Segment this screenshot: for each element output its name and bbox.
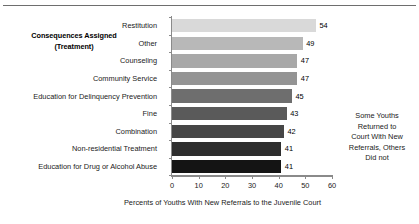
x-axis-tick <box>225 175 226 179</box>
bar <box>172 142 281 155</box>
y-axis-tick <box>169 123 173 124</box>
category-label: Restitution <box>122 21 157 30</box>
annotation-line: Court With New <box>337 132 417 143</box>
y-axis-tick <box>169 35 173 36</box>
x-axis-tick-label: 0 <box>160 181 184 190</box>
bar-row: 41Education for Drug or Alcohol Abuse <box>172 158 332 176</box>
y-axis-tick <box>169 105 173 106</box>
category-label: Fine <box>143 109 157 118</box>
bar-row: 49Other <box>172 35 332 53</box>
x-axis-tick-label: 30 <box>240 181 264 190</box>
category-label: Community Service <box>93 74 157 83</box>
bar-value-label: 41 <box>285 162 293 171</box>
category-label: Education for Drug or Alcohol Abuse <box>38 162 157 171</box>
bar-value-label: 47 <box>301 56 309 65</box>
x-axis-tick-label: 50 <box>293 181 317 190</box>
bar <box>172 125 284 138</box>
y-axis-title-line2: (Treatment) <box>6 42 142 53</box>
x-axis-tick-label: 10 <box>187 181 211 190</box>
chart-annotation: Some YouthsReturned toCourt With NewRefe… <box>337 111 417 164</box>
annotation-line: Some Youths <box>337 111 417 122</box>
bar-row: 41Non-residential Treatment <box>172 140 332 158</box>
x-axis-tick <box>252 175 253 179</box>
top-divider-rule <box>3 5 416 6</box>
bar-row: 43Fine <box>172 105 332 123</box>
annotation-line: Referrals, Others <box>337 143 417 154</box>
x-axis-tick-label: 20 <box>213 181 237 190</box>
category-label: Counseling <box>120 56 157 65</box>
bar <box>172 107 287 120</box>
bar-value-label: 49 <box>306 39 314 48</box>
y-axis-tick <box>169 17 173 18</box>
bar-value-label: 42 <box>288 127 296 136</box>
annotation-line: Returned to <box>337 122 417 133</box>
category-label: Education for Delinquency Prevention <box>33 92 157 101</box>
bar <box>172 72 297 85</box>
bar <box>172 19 316 32</box>
y-axis-tick <box>169 70 173 71</box>
y-axis-title: Consequences Assigned (Treatment) <box>6 31 142 52</box>
x-axis-tick-label: 60 <box>320 181 344 190</box>
category-label: Non-residential Treatment <box>72 144 157 153</box>
bar-value-label: 43 <box>290 109 298 118</box>
y-axis-tick <box>169 158 173 159</box>
bar-value-label: 45 <box>296 92 304 101</box>
bar-value-label: 41 <box>285 144 293 153</box>
y-axis-tick <box>169 87 173 88</box>
annotation-line: Did not <box>337 153 417 164</box>
bar-row: 54Restitution <box>172 17 332 35</box>
bar <box>172 37 303 50</box>
x-axis-tick <box>305 175 306 179</box>
bar-row: 47Community Service <box>172 70 332 88</box>
bar <box>172 160 281 173</box>
bar-row: 47Counseling <box>172 52 332 70</box>
x-axis-tick <box>172 175 173 179</box>
x-axis-title: Percents of Youths With New Referrals to… <box>0 198 419 207</box>
bar <box>172 89 292 102</box>
category-label: Combination <box>116 127 158 136</box>
y-axis-tick <box>169 52 173 53</box>
x-axis-tick-label: 40 <box>267 181 291 190</box>
x-axis-tick <box>332 175 333 179</box>
bar-row: 45Education for Delinquency Prevention <box>172 87 332 105</box>
x-axis-tick <box>279 175 280 179</box>
bar-chart-figure: Consequences Assigned (Treatment) 54Rest… <box>0 0 419 224</box>
bar-value-label: 54 <box>320 21 328 30</box>
bar <box>172 54 297 67</box>
plot-area: 54Restitution49Other47Counseling47Commun… <box>172 17 332 175</box>
y-axis-title-line1: Consequences Assigned <box>6 31 142 42</box>
bar-value-label: 47 <box>301 74 309 83</box>
y-axis-tick <box>169 140 173 141</box>
bar-row: 42Combination <box>172 123 332 141</box>
x-axis-tick <box>199 175 200 179</box>
category-label: Other <box>139 39 157 48</box>
